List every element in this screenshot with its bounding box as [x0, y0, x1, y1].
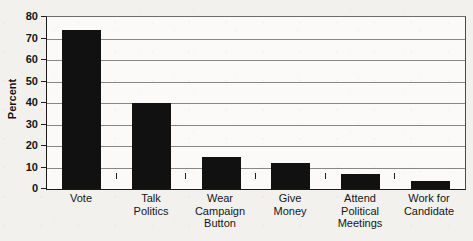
x-axis-category-label-line: Button [185, 217, 255, 230]
y-axis-tick-label: 40 [12, 96, 38, 108]
x-axis-category-label: AttendPoliticalMeetings [325, 192, 395, 230]
bar [341, 174, 380, 189]
x-axis-tickmark [394, 173, 395, 179]
y-axis-tick-label: 0 [12, 182, 38, 194]
y-axis-tickmark [41, 167, 46, 168]
x-axis-category-label: WearCampaignButton [185, 192, 255, 230]
x-axis-category-label-line: Meetings [325, 217, 395, 230]
y-axis-tick-label: 20 [12, 139, 38, 151]
x-axis-category-label-line: Give [255, 192, 325, 205]
x-axis-category-label-line: Candidate [394, 205, 464, 218]
x-axis-category-label-line: Vote [46, 192, 116, 205]
y-axis-tickmark [41, 124, 46, 125]
bar-chart: Percent 01020304050607080 VoteTalkPoliti… [0, 0, 473, 241]
bar [132, 103, 171, 189]
y-axis-tick-labels: 01020304050607080 [12, 0, 38, 241]
bar [411, 181, 450, 189]
x-axis-category-label: GiveMoney [255, 192, 325, 217]
x-axis-category-label-line: Political [325, 205, 395, 218]
y-axis-tick-label: 80 [12, 10, 38, 22]
bar [202, 157, 241, 189]
y-axis-tick-label: 10 [12, 161, 38, 173]
y-axis-tickmark [41, 188, 46, 189]
x-axis-category-label-line: Wear [185, 192, 255, 205]
plot-area [46, 16, 466, 190]
bars-group [47, 17, 465, 189]
x-axis-category-label: Work forCandidate [394, 192, 464, 217]
x-axis-category-label-line: Politics [116, 205, 186, 218]
y-axis-tickmark [41, 59, 46, 60]
x-axis-tick-labels: VoteTalkPoliticsWearCampaignButtonGiveMo… [46, 192, 466, 241]
y-axis-tick-label: 50 [12, 75, 38, 87]
y-axis-tickmark [41, 81, 46, 82]
bar [271, 163, 310, 189]
x-axis-tickmark [116, 173, 117, 179]
y-axis-tick-label: 30 [12, 118, 38, 130]
x-axis-category-label-line: Attend [325, 192, 395, 205]
x-axis-tickmark [185, 173, 186, 179]
bar [62, 30, 101, 189]
y-axis-tickmark [41, 38, 46, 39]
y-axis-tickmark [41, 16, 46, 17]
y-axis-tickmark [41, 145, 46, 146]
x-axis-category-label-line: Work for [394, 192, 464, 205]
x-axis-category-label: Vote [46, 192, 116, 205]
y-axis-tick-label: 70 [12, 32, 38, 44]
x-axis-category-label-line: Money [255, 205, 325, 218]
x-axis-tickmark [325, 173, 326, 179]
y-axis-tick-label: 60 [12, 53, 38, 65]
x-axis-tickmark [255, 173, 256, 179]
y-axis-tickmark [41, 102, 46, 103]
x-axis-category-label: TalkPolitics [116, 192, 186, 217]
x-axis-category-label-line: Talk [116, 192, 186, 205]
x-axis-category-label-line: Campaign [185, 205, 255, 218]
